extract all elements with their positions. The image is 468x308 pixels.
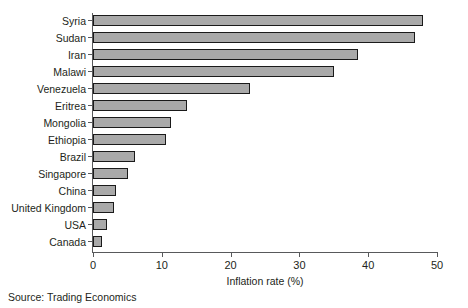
x-axis-tick [93,252,94,257]
bar [93,117,171,128]
bar-row [93,200,437,217]
bar [93,202,114,213]
y-axis-label: Venezuela [37,81,86,98]
y-axis-category-labels: SyriaSudanIranMalawiVenezuelaEritreaMong… [0,13,86,252]
y-axis-label: Syria [62,13,86,30]
x-axis-tick [299,252,300,257]
plot-area [93,13,437,252]
x-axis-title: Inflation rate (%) [0,275,468,287]
bar-row [93,149,437,166]
y-axis-label: Singapore [38,166,86,183]
y-axis-label: Brazil [60,149,86,166]
bar [93,134,166,145]
x-axis-tick-label: 40 [362,259,374,272]
y-axis-label: Eritrea [55,98,86,115]
bar [93,100,187,111]
y-axis-label: Mongolia [43,115,86,132]
x-axis-line [92,252,438,253]
bar-row [93,183,437,200]
bar [93,185,116,196]
x-axis-tick [162,252,163,257]
x-axis-tick-label: 0 [90,259,96,272]
bar-row [93,115,437,132]
y-axis-label: Malawi [53,64,86,81]
x-axis-tick [368,252,369,257]
x-axis-title-text: Inflation rate (%) [226,275,303,287]
bar-row [93,30,437,47]
y-axis-label: United Kingdom [11,200,86,217]
y-axis-label: Iran [68,47,86,64]
bar-row [93,13,437,30]
bar-row [93,98,437,115]
x-axis-tick-label: 10 [156,259,168,272]
bar-row [93,47,437,64]
bar-row [93,217,437,234]
bar [93,66,334,77]
bar-row [93,234,437,251]
x-axis-tick [437,252,438,257]
bar [93,151,135,162]
source-note: Source: Trading Economics [8,291,136,303]
bar [93,15,423,26]
bar [93,236,102,247]
x-axis-tick [231,252,232,257]
inflation-rate-bar-chart: SyriaSudanIranMalawiVenezuelaEritreaMong… [0,0,468,308]
bar [93,83,250,94]
bar-row [93,64,437,81]
bar-row [93,132,437,149]
y-axis-label: USA [64,217,86,234]
x-axis-tick-label: 50 [431,259,443,272]
x-axis-tick-label: 20 [224,259,236,272]
y-axis-label: Ethiopia [48,132,86,149]
y-axis-label: China [59,183,86,200]
bar-row [93,166,437,183]
bar [93,32,415,43]
y-axis-label: Sudan [56,30,86,47]
x-axis-tick-label: 30 [293,259,305,272]
bar-row [93,81,437,98]
bar [93,49,358,60]
bar [93,219,107,230]
bar [93,168,128,179]
y-axis-label: Canada [49,234,86,251]
